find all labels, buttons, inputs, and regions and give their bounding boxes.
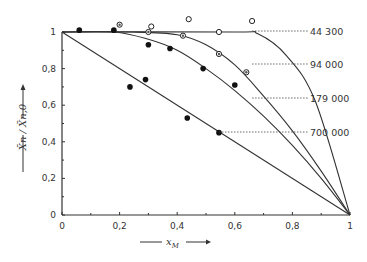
x-tick-label: 1: [347, 221, 353, 231]
data-point-filled: [167, 46, 173, 52]
x-axis-title: xM: [166, 236, 180, 250]
data-point-half-core: [218, 53, 220, 55]
chart: 00,20,40,60,8100,20,40,60,81 44 30094 00…: [0, 0, 367, 262]
data-point-filled: [76, 27, 82, 33]
data-points: [76, 17, 254, 136]
data-point-half-core: [118, 23, 120, 25]
y-tick-label: 0: [50, 210, 56, 220]
data-point-half-core: [147, 31, 149, 33]
data-point-filled: [216, 130, 222, 136]
x-tick-label: 0,4: [170, 221, 185, 231]
x-tick-label: 0: [59, 221, 65, 231]
data-point-filled: [111, 27, 117, 33]
data-point-filled: [143, 77, 149, 83]
data-point-open: [149, 24, 154, 29]
y-tick-label: 0,6: [42, 100, 57, 110]
series-label: 700 000: [310, 127, 349, 138]
axes: 00,20,40,60,8100,20,40,60,81: [42, 27, 353, 231]
series-label: 179 000: [310, 93, 349, 104]
x-tick-label: 0,6: [228, 221, 243, 231]
y-tick-label: 0,4: [42, 137, 57, 147]
x-tick-label: 0,2: [112, 221, 126, 231]
data-point-filled: [127, 84, 133, 90]
x-tick-label: 0,8: [285, 221, 300, 231]
y-tick-label: 0,2: [42, 173, 56, 183]
data-point-filled: [184, 115, 190, 121]
data-point-filled: [232, 82, 238, 88]
series-label: 94 000: [310, 59, 343, 70]
y-axis-arrow-icon: [21, 84, 26, 90]
data-point-half-core: [182, 34, 184, 36]
x-axis-arrow-icon: [206, 240, 211, 245]
data-point-open: [249, 18, 254, 23]
data-point-filled: [200, 66, 206, 72]
curves: [62, 31, 350, 215]
series-label: 44 300: [310, 26, 343, 37]
y-tick-label: 0,8: [42, 64, 57, 74]
data-point-open: [186, 17, 191, 22]
data-point-open: [216, 29, 221, 34]
y-tick-label: 1: [50, 27, 56, 37]
data-point-half-core: [245, 71, 247, 73]
data-point-filled: [146, 42, 152, 48]
curve-700000: [62, 32, 350, 215]
